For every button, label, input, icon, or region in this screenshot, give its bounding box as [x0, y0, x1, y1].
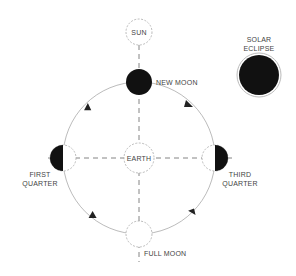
earth: EARTH — [124, 143, 154, 173]
full-moon-label: FULL MOON — [144, 250, 186, 257]
third-quarter-label-1: THIRD — [229, 171, 251, 178]
solar-eclipse: SOLAR ECLIPSE — [237, 36, 281, 97]
first-quarter-label-2: QUARTER — [22, 180, 58, 188]
moon-phase-diagram: SUN EARTH NEW MOON FIRST QUARTER THIRD Q… — [0, 0, 296, 276]
solar-eclipse-label-1: SOLAR — [247, 36, 272, 43]
earth-label: EARTH — [127, 155, 152, 162]
third-quarter-moon: THIRD QUARTER — [202, 145, 258, 188]
full-moon: FULL MOON — [126, 221, 186, 257]
solar-eclipse-label-2: ECLIPSE — [244, 45, 275, 52]
sun: SUN — [126, 19, 152, 45]
new-moon-label: NEW MOON — [156, 79, 198, 86]
first-quarter-label-1: FIRST — [29, 171, 51, 178]
first-quarter-moon: FIRST QUARTER — [22, 145, 76, 188]
sun-label: SUN — [131, 29, 146, 36]
orbit-arrow-lower-right — [188, 207, 198, 217]
new-moon: NEW MOON — [126, 69, 198, 95]
third-quarter-label-2: QUARTER — [222, 180, 258, 188]
